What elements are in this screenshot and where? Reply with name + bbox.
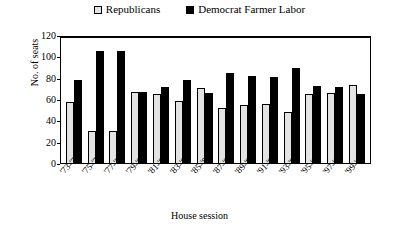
bar-republicans — [153, 94, 161, 163]
legend-label-republicans: Republicans — [106, 4, 160, 15]
y-tick-label: 80 — [46, 74, 56, 84]
bar-group — [63, 38, 85, 163]
bar-republicans — [197, 88, 205, 163]
bar-group — [85, 38, 107, 163]
y-tick-label: 0 — [51, 159, 56, 169]
bar-dfl — [270, 77, 278, 163]
bar-republicans — [131, 92, 139, 163]
bar-group — [346, 38, 368, 163]
bar-republicans — [327, 93, 335, 163]
bar-republicans — [349, 85, 357, 163]
bar-dfl — [226, 73, 234, 163]
y-tick-label: 20 — [46, 138, 56, 148]
bar-dfl — [96, 51, 104, 163]
bar-group — [194, 38, 216, 163]
y-tick-label: 60 — [46, 95, 56, 105]
bar-group — [303, 38, 325, 163]
y-tick-label: 40 — [46, 116, 56, 126]
bar-group — [259, 38, 281, 163]
bar-republicans — [305, 94, 313, 163]
bar-group — [128, 38, 150, 163]
legend-entry-republicans: Republicans — [94, 4, 160, 15]
bar-chart: Republicans Democrat Farmer Labor 020406… — [0, 0, 399, 232]
bar-group — [281, 38, 303, 163]
bar-group — [172, 38, 194, 163]
bar-group — [215, 38, 237, 163]
x-axis-title: House session — [0, 210, 399, 221]
legend-label-dfl: Democrat Farmer Labor — [198, 4, 305, 15]
dark-square-icon — [186, 6, 194, 14]
chart-legend: Republicans Democrat Farmer Labor — [0, 4, 399, 15]
plot-area — [60, 36, 371, 164]
bar-dfl — [117, 51, 125, 163]
bar-dfl — [183, 80, 191, 163]
y-tick-label: 100 — [41, 52, 56, 62]
bar-dfl — [248, 76, 256, 163]
y-tick-label: 120 — [41, 31, 56, 41]
bar-group — [107, 38, 129, 163]
y-axis-title: No. of seats — [29, 13, 40, 113]
x-axis: '73-'74'75-'76'77-'78'79-'80'81-'82'83-'… — [60, 164, 371, 208]
light-square-icon — [94, 6, 102, 14]
bar-group — [237, 38, 259, 163]
bar-group — [150, 38, 172, 163]
bar-group — [324, 38, 346, 163]
bar-dfl — [74, 80, 82, 163]
bar-dfl — [292, 68, 300, 163]
bars-container — [61, 38, 370, 163]
x-tick: '99-'00 — [347, 164, 369, 208]
legend-entry-dfl: Democrat Farmer Labor — [186, 4, 305, 15]
